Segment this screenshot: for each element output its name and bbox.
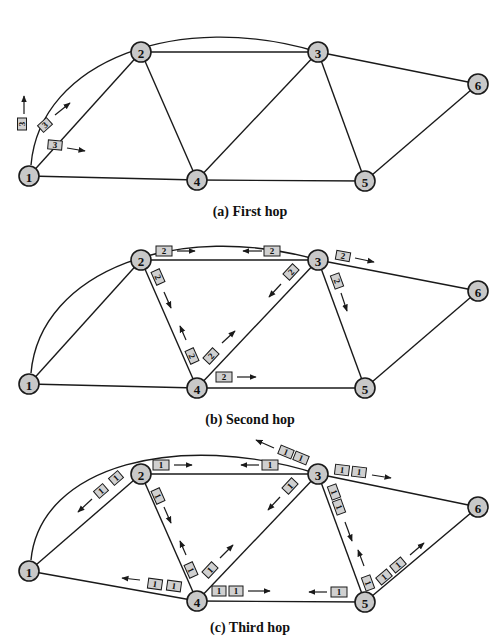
arrow-icon: [67, 148, 85, 151]
node-2: 2: [131, 250, 151, 270]
arrow-icon: [355, 258, 374, 262]
packet: 1: [262, 460, 278, 470]
arrow-icon: [180, 541, 186, 555]
edge-3-4: [197, 260, 318, 388]
node-6: 6: [468, 497, 488, 517]
edge-3-4: [197, 474, 318, 601]
svg-text:2: 2: [222, 372, 227, 382]
svg-text:6: 6: [475, 78, 482, 93]
arrow-icon: [256, 440, 274, 448]
svg-text:3: 3: [17, 121, 27, 126]
svg-text:3: 3: [315, 46, 322, 61]
arrow-icon: [122, 578, 140, 580]
node-4: 4: [187, 170, 207, 190]
node-4: 4: [187, 591, 207, 611]
node-2: 2: [131, 464, 151, 484]
node-2: 2: [131, 42, 151, 62]
svg-text:1: 1: [26, 170, 33, 185]
packet: 1: [166, 580, 181, 592]
edge-3-5: [318, 52, 365, 181]
edge-5-6: [365, 507, 478, 602]
arrow-icon: [164, 292, 171, 308]
node-6: 6: [468, 281, 488, 301]
edge-1-4: [29, 176, 197, 180]
packet: 2: [156, 246, 172, 256]
packet: 1: [334, 464, 349, 476]
packet: 1: [332, 499, 346, 516]
svg-text:4: 4: [194, 174, 201, 189]
edge-1-3: [31, 37, 318, 165]
arrow-icon: [55, 103, 70, 115]
svg-text:1: 1: [217, 586, 222, 596]
node-5: 5: [355, 378, 375, 398]
node-6: 6: [468, 74, 488, 94]
node-1: 1: [19, 561, 39, 581]
svg-text:1: 1: [234, 586, 239, 596]
svg-text:1: 1: [268, 460, 273, 470]
packet: 1: [229, 586, 243, 596]
svg-text:2: 2: [270, 246, 275, 256]
packet: 2: [283, 263, 300, 280]
caption-third-hop: (c) Third hop: [210, 620, 290, 636]
arrow-icon: [268, 497, 280, 510]
packet: 3: [48, 139, 63, 150]
caption-first-hop: (a) First hop: [213, 204, 288, 220]
svg-text:1: 1: [26, 565, 33, 580]
packet: 1: [327, 484, 341, 501]
edge-1-2: [29, 260, 141, 384]
arrow-icon: [372, 475, 391, 478]
svg-text:3: 3: [315, 468, 322, 483]
arrow-icon: [180, 326, 186, 340]
packet: 1: [278, 445, 295, 460]
edge-3-6: [318, 52, 478, 84]
edge-1-3: [31, 455, 318, 560]
caption-second-hop: (b) Second hop: [205, 412, 295, 428]
packet: 1: [351, 466, 366, 478]
packet: 2: [264, 246, 280, 256]
packet: 3: [17, 118, 27, 130]
node-5: 5: [355, 171, 375, 191]
edge-5-6: [365, 291, 478, 388]
edge-1-4: [29, 384, 197, 388]
packet: 1: [147, 578, 162, 590]
edge-1-2: [29, 52, 141, 176]
packet: 1: [282, 477, 299, 494]
panel-first-hop: 3 3 3 1 2 3 4 5 6 (a) First hop: [17, 37, 488, 220]
node-3: 3: [308, 464, 328, 484]
panel-second-hop: 2 2 2 2 2 2 2 2 2 1 2 3 4 5 6 (b) Second…: [19, 246, 488, 428]
packet: 1: [293, 451, 310, 466]
arrow-icon: [220, 545, 233, 558]
svg-text:5: 5: [362, 596, 369, 611]
packet: 1: [93, 483, 109, 498]
svg-text:1: 1: [26, 378, 33, 393]
packet: 2: [216, 372, 232, 382]
edge-4-5: [197, 601, 365, 602]
arrow-icon: [164, 507, 171, 523]
svg-text:2: 2: [162, 246, 167, 256]
panel-third-hop: 1 1 1 1 1 1 1 1 1 1 1 1 1 1 1: [19, 440, 488, 636]
edge-3-4: [197, 52, 318, 180]
arrow-icon: [410, 543, 424, 555]
packet: 1: [202, 561, 219, 578]
edge-2-4: [141, 52, 197, 180]
arrow-icon: [269, 284, 281, 297]
svg-text:6: 6: [475, 501, 482, 516]
packet: 1: [108, 470, 124, 485]
svg-text:2: 2: [138, 46, 145, 61]
arrow-icon: [341, 293, 347, 311]
svg-text:1: 1: [337, 587, 342, 597]
arrow-icon: [358, 550, 364, 566]
packet: 1: [389, 557, 406, 574]
arrow-icon: [222, 331, 235, 343]
packet: 2: [185, 348, 200, 365]
flooding-diagram: 3 3 3 1 2 3 4 5 6 (a) First hop: [0, 0, 501, 638]
edge-2-4: [141, 260, 197, 388]
packet: 1: [153, 460, 169, 470]
edge-4-5: [197, 180, 365, 181]
svg-text:1: 1: [159, 460, 164, 470]
svg-text:2: 2: [138, 468, 145, 483]
packet: 2: [151, 269, 166, 286]
edges: [29, 246, 478, 388]
node-1: 1: [19, 374, 39, 394]
svg-text:2: 2: [138, 254, 145, 269]
